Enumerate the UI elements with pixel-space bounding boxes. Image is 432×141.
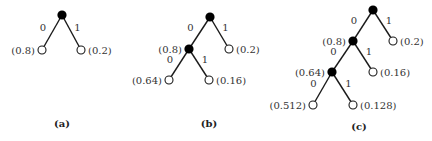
- leaf-node-icon: [165, 76, 173, 84]
- edge-label: 1: [345, 78, 351, 89]
- edge-label: 1: [366, 46, 372, 57]
- edge-label: 0: [40, 22, 46, 33]
- probability-label: (0.16): [380, 67, 410, 78]
- leaf-node-icon: [349, 101, 357, 109]
- leaf-node-icon: [205, 76, 213, 84]
- edge-label: 1: [386, 15, 392, 26]
- probability-label: (0.64): [132, 75, 162, 86]
- edge-label: 0: [167, 54, 173, 65]
- internal-node-icon: [368, 5, 377, 14]
- internal-node-icon: [327, 67, 336, 76]
- edge-label: 1: [202, 54, 208, 65]
- edge-label: 1: [74, 22, 80, 33]
- leaf-node-icon: [309, 101, 317, 109]
- edge-label: 0: [310, 78, 316, 89]
- leaf-node-icon: [369, 68, 377, 76]
- edge-label: 0: [187, 22, 193, 33]
- tree-panel-b: 0101(0.8)(0.2)(0.64)(0.16)(b): [132, 12, 260, 129]
- tree-edge: [42, 15, 62, 50]
- tree-panel-a: 01(0.8)(0.2)(a): [11, 10, 112, 129]
- edge-label: 0: [330, 46, 336, 57]
- probability-label: (0.2): [400, 36, 424, 47]
- internal-node-icon: [205, 12, 214, 21]
- probability-label: (0.8): [11, 45, 35, 56]
- probability-label: (0.8): [322, 36, 346, 47]
- probability-label: (0.8): [158, 44, 182, 55]
- probability-label: (0.128): [360, 100, 397, 111]
- leaf-node-icon: [225, 45, 233, 53]
- edge-label: 0: [351, 15, 357, 26]
- probability-label: (0.512): [270, 100, 307, 111]
- probability-label: (0.2): [88, 45, 112, 56]
- internal-node-icon: [348, 36, 357, 45]
- leaf-node-icon: [38, 46, 46, 54]
- leaf-node-icon: [389, 37, 397, 45]
- tree-edge: [62, 15, 81, 50]
- probability-label: (0.64): [295, 67, 325, 78]
- tree-panel-c: 010101(0.8)(0.2)(0.64)(0.16)(0.512)(0.12…: [270, 5, 424, 132]
- internal-node-icon: [57, 10, 66, 19]
- panel-caption: (c): [351, 121, 367, 132]
- probability-label: (0.16): [216, 75, 246, 86]
- edge-label: 1: [222, 22, 228, 33]
- binary-tree-figure: 01(0.8)(0.2)(a)0101(0.8)(0.2)(0.64)(0.16…: [0, 0, 432, 141]
- panel-caption: (b): [201, 118, 217, 129]
- panel-caption: (a): [54, 118, 70, 129]
- internal-node-icon: [184, 44, 193, 53]
- leaf-node-icon: [77, 46, 85, 54]
- probability-label: (0.2): [236, 44, 260, 55]
